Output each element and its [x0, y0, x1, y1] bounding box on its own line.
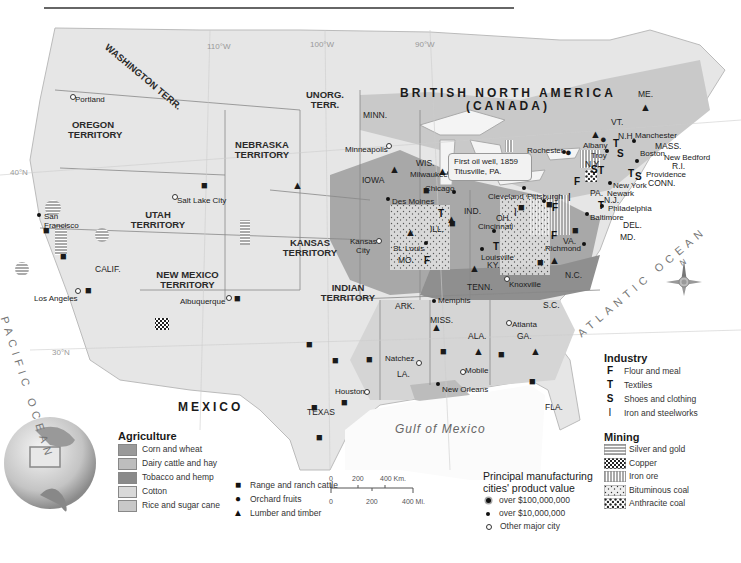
city-marker [608, 181, 612, 185]
cattle-icon: ■ [341, 398, 348, 407]
label-nebraska-territory: NEBRASKA TERRITORY [232, 140, 292, 160]
city-marker [432, 299, 436, 303]
label-nc: N.C. [565, 270, 582, 280]
iron-icon: I [604, 406, 616, 420]
legend-item: Tobacco and hemp [118, 470, 220, 484]
city-marker [226, 295, 232, 301]
cattle-icon: ■ [60, 252, 67, 261]
city-minneapolis: Minneapolis [345, 145, 388, 154]
label-indian-territory: INDIAN TERRITORY [318, 283, 378, 303]
label-wis: WIS. [416, 158, 434, 168]
label-tenn: TENN. [467, 282, 493, 292]
city-natchez: Natchez [385, 354, 414, 363]
orchard-icon: ● [565, 148, 572, 157]
city-portland: Portland [75, 95, 105, 104]
city-marker [585, 212, 589, 216]
city-baltimore: Baltimore [590, 213, 624, 222]
city-cleveland: Cleveland [488, 192, 524, 201]
cattle-icon: ■ [85, 286, 92, 295]
tree-icon: ▲ [469, 264, 480, 273]
legend-ag-symbols: ■Range and ranch cattle ●Orchard fruits … [232, 478, 338, 520]
label-la: LA. [397, 369, 410, 379]
city-atlanta: Atlanta [512, 320, 537, 329]
label-oregon-territory: OREGON TERRITORY [68, 120, 118, 140]
city-marker [37, 213, 41, 217]
cattle-icon: ■ [43, 226, 50, 235]
label-unorg-terr: UNORG. TERR. [305, 90, 345, 110]
orchard-icon: ● [600, 135, 607, 144]
cattle-icon: ■ [316, 433, 323, 442]
label-ala: ALA. [468, 331, 486, 341]
tree-icon: ▲ [389, 165, 400, 174]
label-mexico: MEXICO [178, 401, 243, 414]
city-marker [582, 242, 586, 246]
swatch-tobacco [118, 472, 137, 484]
city-louisville: Louisville [481, 253, 514, 262]
industry-shoes-icon: S [591, 164, 598, 175]
swatch-dairy [118, 458, 137, 470]
cattle-icon: ■ [440, 347, 447, 356]
label-mo: MO. [398, 255, 414, 265]
cattle-icon: ■ [537, 258, 544, 267]
city-providence: Providence [646, 170, 686, 179]
label-conn: CONN. [648, 178, 675, 188]
label-del: DEL. [623, 220, 642, 230]
textiles-icon: T [604, 378, 616, 392]
legend-item: Rice and sugar cane [118, 498, 220, 512]
industry-textiles-icon: T [493, 241, 499, 252]
industry-flour-icon: F [424, 255, 430, 266]
city-marker [364, 389, 370, 395]
graticule-30n: 30°N [52, 348, 70, 357]
label-ind: IND. [464, 206, 481, 216]
industry-shoes-icon: S [635, 171, 642, 182]
industry-iron-icon: I [514, 207, 517, 218]
industry-textiles-icon: T [598, 200, 604, 211]
industry-textiles-icon: T [438, 208, 444, 219]
swatch-corn-wheat [118, 444, 137, 456]
label-md: MD. [620, 232, 636, 242]
iron-ore-pattern-icon [604, 471, 626, 482]
legend-agriculture: Agriculture Corn and wheat Dairy cattle … [118, 430, 220, 512]
legend-manufacturing-title: Principal manufacturing cities' product … [483, 470, 593, 494]
tree-icon: ▲ [437, 167, 448, 176]
industry-textiles-icon: T [628, 168, 634, 179]
graticule-100w: 100°W [310, 40, 334, 49]
label-iowa: IOWA [362, 175, 384, 185]
city-cincinnati: Cincinnati [478, 222, 513, 231]
city-new-orleans: New Orleans [442, 385, 488, 394]
city-philadelphia: Philadelphia [608, 204, 652, 213]
open-dot-icon [486, 524, 492, 530]
label-ill: ILL. [430, 224, 444, 234]
tree-icon: ▲ [431, 323, 442, 332]
city-marker [522, 186, 526, 190]
label-minn: MINN. [363, 110, 387, 120]
label-new-mexico-territory: NEW MEXICO TERRITORY [150, 270, 225, 290]
scale-mi-400: 400 Mi. [402, 497, 425, 506]
industry-flour-icon: F [552, 202, 558, 213]
large-dot-icon [486, 498, 491, 503]
graticule-40n: 40°N [10, 168, 28, 177]
city-marker [424, 241, 428, 245]
label-gulf-of-mexico: Gulf of Mexico [395, 422, 486, 436]
cattle-icon: ■ [529, 377, 536, 386]
industry-flour-icon: F [574, 176, 580, 187]
cattle-icon: ■ [498, 350, 505, 359]
legend-mining: Mining Silver and gold Copper Iron ore B… [604, 431, 689, 511]
label-kansas-territory: KANSAS TERRITORY [280, 238, 340, 258]
cattle-icon: ■ [234, 294, 241, 303]
tree-icon: ▲ [405, 228, 416, 237]
cattle-icon: ■ [546, 200, 553, 209]
cattle-icon: ■ [232, 478, 244, 492]
city-knoxville: Knoxville [509, 280, 541, 289]
city-richmond: Richmond [545, 244, 581, 253]
legend-item: Cotton [118, 484, 220, 498]
label-vt: VT. [611, 117, 623, 127]
tree-icon: ▲ [292, 181, 303, 190]
label-ark: ARK. [395, 301, 415, 311]
city-marker [480, 247, 484, 251]
tree-icon: ▲ [473, 347, 484, 356]
city-troy: Troy [591, 151, 607, 160]
scale-mi-200: 200 [366, 497, 378, 506]
cattle-icon: ■ [332, 356, 339, 365]
city-marker [635, 159, 639, 163]
